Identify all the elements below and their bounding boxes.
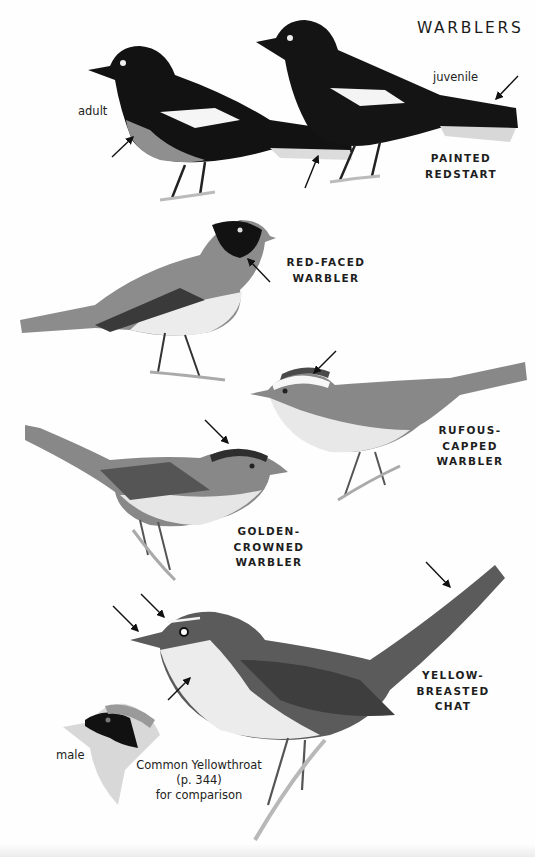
species-label-painted-redstart: PAINTED REDSTART <box>416 151 506 182</box>
label-line: WARBLER <box>224 555 314 571</box>
label-line: CAPPED <box>425 439 515 455</box>
label-line: WARBLER <box>425 454 515 470</box>
species-label-golden-crowned-warbler: GOLDEN- CROWNED WARBLER <box>224 524 314 571</box>
label-line: PAINTED <box>416 151 506 167</box>
label-line: YELLOW- <box>403 668 503 684</box>
caption-line: for comparison <box>131 788 267 803</box>
species-label-rufous-capped-warbler: RUFOUS- CAPPED WARBLER <box>425 423 515 470</box>
species-label-yellow-breasted-chat: YELLOW- BREASTED CHAT <box>403 668 503 715</box>
label-line: CROWNED <box>224 540 314 556</box>
red-faced-warbler-illustration <box>20 220 276 380</box>
page-bottom-shadow <box>0 843 535 857</box>
label-line: BREASTED <box>403 684 503 700</box>
comparison-caption: Common Yellowthroat (p. 344) for compari… <box>131 758 267 803</box>
page-title: WARBLERS <box>417 19 523 37</box>
caption-line: Common Yellowthroat <box>131 758 267 773</box>
label-line: GOLDEN- <box>224 524 314 540</box>
label-line: RUFOUS- <box>425 423 515 439</box>
caption-line: (p. 344) <box>131 773 267 788</box>
label-line: CHAT <box>403 699 503 715</box>
species-label-red-faced-warbler: RED-FACED WARBLER <box>281 255 371 286</box>
label-line: WARBLER <box>281 271 371 287</box>
label-line: RED-FACED <box>281 255 371 271</box>
label-line: REDSTART <box>416 167 506 183</box>
annotation-adult: adult <box>78 104 107 119</box>
field-guide-page: WARBLERS adult juvenile PAINTED REDSTART… <box>0 0 535 857</box>
annotation-juvenile: juvenile <box>433 70 478 85</box>
annotation-male: male <box>56 748 85 763</box>
